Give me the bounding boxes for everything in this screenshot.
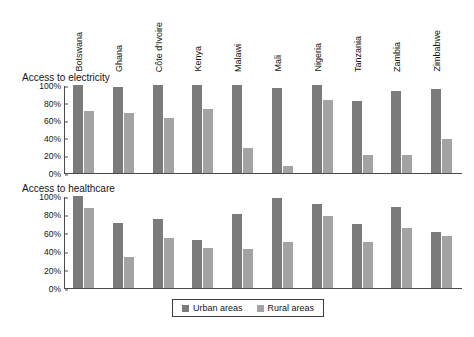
- bar-rural: [363, 242, 373, 288]
- panel-title-electricity: Access to electricity: [22, 72, 110, 83]
- bar-group: [73, 86, 105, 173]
- bar-group: [113, 86, 145, 173]
- y-axis-tick-label: 40%: [44, 248, 65, 257]
- legend-label-rural: Rural areas: [268, 303, 315, 313]
- y-axis-tick-label: 80%: [44, 211, 65, 220]
- bar-urban: [312, 85, 322, 173]
- bar-group: [312, 86, 344, 173]
- bar-rural: [323, 100, 333, 173]
- bar-rural: [402, 155, 412, 173]
- bar-rural: [164, 118, 174, 173]
- bar-rural: [84, 208, 94, 288]
- y-axis-tick-label: 80%: [44, 99, 65, 108]
- bar-urban: [312, 204, 322, 288]
- chart-legend: Urban areas Rural areas: [172, 299, 324, 317]
- bar-rural: [442, 236, 452, 288]
- category-label: Botswana: [75, 32, 84, 72]
- bar-group: [431, 197, 463, 288]
- bars-healthcare: [65, 197, 462, 288]
- bar-rural: [442, 139, 452, 173]
- bars-electricity: [65, 86, 462, 173]
- plot-area-electricity: 0%20%40%60%80%100%: [64, 86, 462, 174]
- bar-rural: [124, 113, 134, 173]
- bar-urban: [192, 240, 202, 288]
- bar-group: [391, 86, 423, 173]
- bar-rural: [124, 257, 134, 288]
- chart-figure: BotswanaGhanaCôte d'IvoireKenyaMalawiMal…: [0, 0, 474, 337]
- category-label: Zambia: [393, 42, 402, 72]
- legend-item-rural: Rural areas: [257, 303, 315, 313]
- bar-group: [312, 197, 344, 288]
- bar-rural: [203, 248, 213, 288]
- y-axis-tick-label: 40%: [44, 134, 65, 143]
- category-axis-labels: BotswanaGhanaCôte d'IvoireKenyaMalawiMal…: [0, 0, 474, 72]
- y-axis-tick-label: 100%: [39, 82, 65, 91]
- category-label: Côte d'Ivoire: [155, 22, 164, 72]
- bar-urban: [272, 198, 282, 288]
- bar-group: [113, 197, 145, 288]
- bar-group: [192, 86, 224, 173]
- y-axis-tick-label: 20%: [44, 266, 65, 275]
- bar-urban: [113, 87, 123, 173]
- bar-urban: [431, 89, 441, 173]
- bar-group: [153, 197, 185, 288]
- bar-rural: [164, 238, 174, 288]
- bar-rural: [402, 228, 412, 288]
- bar-urban: [272, 88, 282, 173]
- bar-urban: [391, 207, 401, 288]
- bar-group: [352, 197, 384, 288]
- panel-title-healthcare: Access to healthcare: [22, 183, 115, 194]
- bar-group: [391, 197, 423, 288]
- bar-urban: [113, 223, 123, 288]
- bar-rural: [363, 155, 373, 173]
- y-axis-tick-label: 60%: [44, 117, 65, 126]
- legend-swatch-rural-icon: [257, 305, 264, 312]
- bar-group: [431, 86, 463, 173]
- bar-group: [192, 197, 224, 288]
- bar-group: [272, 197, 304, 288]
- bar-group: [232, 86, 264, 173]
- bar-group: [272, 86, 304, 173]
- bar-urban: [73, 196, 83, 288]
- bar-rural: [323, 216, 333, 288]
- bar-rural: [243, 148, 253, 173]
- bar-group: [153, 86, 185, 173]
- y-axis-tick-label: 0%: [49, 285, 65, 294]
- y-axis-tick-label: 0%: [49, 170, 65, 179]
- category-label: Zimbabwe: [433, 30, 442, 72]
- y-axis-tick-label: 60%: [44, 229, 65, 238]
- bar-urban: [153, 85, 163, 173]
- y-axis-tick-label: 20%: [44, 152, 65, 161]
- bar-rural: [84, 111, 94, 173]
- bar-group: [232, 197, 264, 288]
- bar-group: [352, 86, 384, 173]
- bar-urban: [192, 85, 202, 173]
- bar-group: [73, 197, 105, 288]
- bar-urban: [352, 224, 362, 288]
- legend-swatch-urban-icon: [182, 305, 189, 312]
- category-label: Tanzania: [354, 36, 363, 72]
- panel-access-to-electricity: Access to electricity 0%20%40%60%80%100%: [0, 72, 474, 176]
- bar-rural: [283, 166, 293, 173]
- bar-urban: [352, 101, 362, 173]
- y-axis-tick-label: 100%: [39, 193, 65, 202]
- category-label: Malawi: [234, 44, 243, 72]
- bar-urban: [431, 232, 441, 288]
- bar-urban: [73, 85, 83, 173]
- bar-urban: [232, 85, 242, 173]
- bar-rural: [243, 249, 253, 288]
- bar-urban: [153, 219, 163, 288]
- category-label: Nigeria: [314, 43, 323, 72]
- category-label: Ghana: [115, 45, 124, 72]
- bar-rural: [283, 242, 293, 288]
- bar-rural: [203, 109, 213, 173]
- bar-urban: [232, 214, 242, 288]
- legend-item-urban: Urban areas: [182, 303, 243, 313]
- category-label: Kenya: [194, 46, 203, 72]
- panel-access-to-healthcare: Access to healthcare 0%20%40%60%80%100%: [0, 183, 474, 293]
- bar-urban: [391, 91, 401, 173]
- legend-label-urban: Urban areas: [193, 303, 243, 313]
- plot-area-healthcare: 0%20%40%60%80%100%: [64, 197, 462, 289]
- category-label: Mali: [274, 55, 283, 72]
